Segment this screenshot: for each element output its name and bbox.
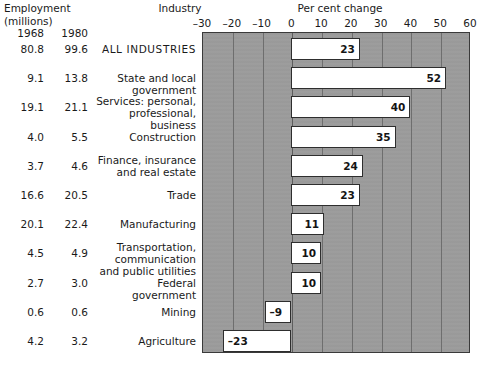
industry-label-line: and real estate <box>96 166 196 178</box>
employment-1980-value: 0.6 <box>44 306 88 318</box>
chart-rows: 80.899.6ALL INDUSTRIES239.113.8State and… <box>0 0 480 367</box>
bar-value-label: 40 <box>388 96 405 118</box>
employment-values: 16.620.5 <box>4 189 90 201</box>
industry-label-line: professional, business <box>96 107 196 131</box>
industry-label: Agriculture <box>96 335 196 347</box>
bar-value-label: 10 <box>299 272 316 294</box>
industry-label: Federal government <box>96 277 196 301</box>
employment-values: 19.121.1 <box>4 101 90 113</box>
employment-1968-value: 3.7 <box>4 160 44 172</box>
employment-1980-value: 3.2 <box>44 335 88 347</box>
employment-1968-value: 19.1 <box>4 101 44 113</box>
employment-1980-value: 22.4 <box>44 218 88 230</box>
industry-label-line: ALL INDUSTRIES <box>96 43 196 55</box>
bar-value-label: 23 <box>338 38 355 60</box>
employment-values: 9.113.8 <box>4 72 90 84</box>
industry-label-line: Manufacturing <box>96 218 196 230</box>
employment-1968-value: 2.7 <box>4 277 44 289</box>
industry-label: Transportation, communicationand public … <box>96 241 196 277</box>
industry-label: Construction <box>96 131 196 143</box>
employment-1980-value: 4.6 <box>44 160 88 172</box>
bar-value-label: –23 <box>228 330 248 352</box>
bar-chart-figure: Employment (millions) Industry Per cent … <box>0 0 480 367</box>
bar-value-label: 11 <box>302 213 319 235</box>
bar-value-label: 24 <box>341 155 358 177</box>
bar-value-label: 23 <box>338 184 355 206</box>
employment-1968-value: 9.1 <box>4 72 44 84</box>
employment-values: 3.74.6 <box>4 160 90 172</box>
employment-values: 4.23.2 <box>4 335 90 347</box>
industry-label-line: State and local government <box>96 72 196 96</box>
employment-1968-value: 4.5 <box>4 247 44 259</box>
employment-1980-value: 4.9 <box>44 247 88 259</box>
industry-label-line: and public utilities <box>96 265 196 277</box>
industry-label-line: Agriculture <box>96 335 196 347</box>
industry-label-line: Trade <box>96 189 196 201</box>
employment-1968-value: 4.0 <box>4 131 44 143</box>
industry-label: Finance, insuranceand real estate <box>96 154 196 178</box>
bar-value-label: 10 <box>299 242 316 264</box>
bar-value-label: 52 <box>424 67 441 89</box>
employment-values: 20.122.4 <box>4 218 90 230</box>
industry-label: Trade <box>96 189 196 201</box>
employment-values: 80.899.6 <box>4 43 90 55</box>
bar-value-label: 35 <box>374 126 391 148</box>
employment-1980-value: 20.5 <box>44 189 88 201</box>
industry-label: State and local government <box>96 72 196 96</box>
employment-1968-value: 80.8 <box>4 43 44 55</box>
industry-label-line: Federal government <box>96 277 196 301</box>
bar <box>291 67 446 89</box>
industry-label-line: Finance, insurance <box>96 154 196 166</box>
industry-label-line: Services: personal, <box>96 95 196 107</box>
bar-value-label: –9 <box>270 301 290 323</box>
employment-1968-value: 4.2 <box>4 335 44 347</box>
employment-1980-value: 13.8 <box>44 72 88 84</box>
employment-values: 0.60.6 <box>4 306 90 318</box>
employment-1968-value: 0.6 <box>4 306 44 318</box>
employment-values: 2.73.0 <box>4 277 90 289</box>
employment-values: 4.54.9 <box>4 247 90 259</box>
industry-label: Services: personal,professional, busines… <box>96 95 196 131</box>
industry-label: Mining <box>96 306 196 318</box>
industry-label-line: Mining <box>96 306 196 318</box>
employment-1980-value: 5.5 <box>44 131 88 143</box>
industry-label-line: Transportation, communication <box>96 241 196 265</box>
employment-1980-value: 3.0 <box>44 277 88 289</box>
employment-values: 4.05.5 <box>4 131 90 143</box>
industry-label: ALL INDUSTRIES <box>96 43 196 55</box>
employment-1980-value: 99.6 <box>44 43 88 55</box>
employment-1980-value: 21.1 <box>44 101 88 113</box>
industry-label-line: Construction <box>96 131 196 143</box>
employment-1968-value: 20.1 <box>4 218 44 230</box>
employment-1968-value: 16.6 <box>4 189 44 201</box>
industry-label: Manufacturing <box>96 218 196 230</box>
